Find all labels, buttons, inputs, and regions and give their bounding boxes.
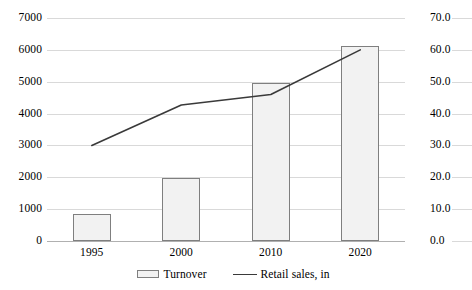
chart-legend: TurnoverRetail sales, in xyxy=(0,268,467,280)
left-axis-tick-label: 2000 xyxy=(2,171,42,183)
category-axis-label: 1995 xyxy=(62,247,122,259)
right-axis-tick xyxy=(452,241,472,242)
right-axis-tick xyxy=(452,82,472,83)
category-axis-label: 2020 xyxy=(330,247,390,259)
category-axis-label: 2010 xyxy=(241,247,301,259)
right-axis-tick xyxy=(452,114,472,115)
right-axis-tick xyxy=(452,209,472,210)
left-axis-tick-label: 4000 xyxy=(2,108,42,120)
bar xyxy=(162,178,200,241)
right-axis-tick xyxy=(452,145,472,146)
left-axis-tick-label: 0 xyxy=(2,235,42,247)
left-axis-tick-label: 7000 xyxy=(2,12,42,24)
right-axis-tick xyxy=(452,50,472,51)
left-axis-tick-label: 5000 xyxy=(2,76,42,88)
bar xyxy=(73,214,111,241)
left-axis-tick-label: 3000 xyxy=(2,139,42,151)
gridline xyxy=(47,18,405,19)
right-axis-tick xyxy=(452,177,472,178)
bar-swatch-icon xyxy=(137,270,159,278)
legend-item-label: Turnover xyxy=(163,268,206,280)
bar xyxy=(341,46,379,241)
left-axis-tick-label: 1000 xyxy=(2,203,42,215)
legend-item-label: Retail sales, in xyxy=(261,268,330,280)
left-axis-tick-label: 6000 xyxy=(2,44,42,56)
retail-sales-polyline xyxy=(92,50,361,145)
line-swatch-icon xyxy=(233,274,257,275)
legend-item[interactable]: Turnover xyxy=(137,268,206,280)
plot-area xyxy=(47,18,405,241)
legend-item[interactable]: Retail sales, in xyxy=(233,268,330,280)
category-axis-label: 2000 xyxy=(151,247,211,259)
gridline xyxy=(47,241,405,242)
right-axis-tick xyxy=(452,18,472,19)
bar xyxy=(252,83,290,241)
